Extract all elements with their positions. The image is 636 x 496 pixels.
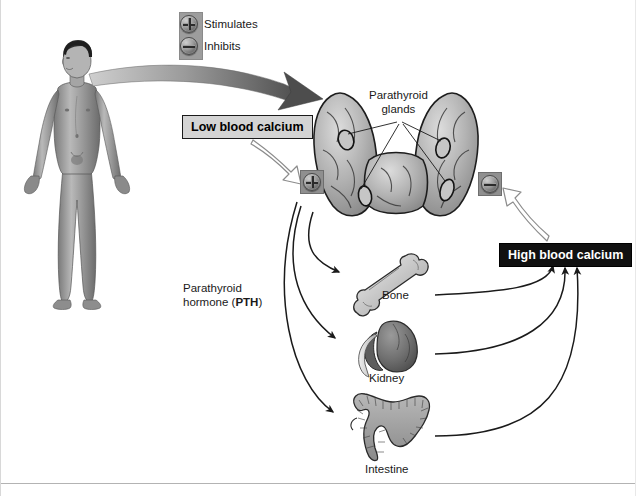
pth-line2-prefix: hormone ( — [183, 296, 235, 308]
stimulates-badge — [300, 170, 324, 194]
plus-circle-icon — [303, 173, 321, 191]
parathyroid-glands-line1: Parathyroid — [369, 88, 428, 102]
pth-line1: Parathyroid — [183, 281, 262, 295]
low-calcium-to-stimulates-arrow — [251, 140, 301, 184]
minus-circle-icon — [481, 175, 499, 193]
bone-label: Bone — [382, 288, 409, 302]
bottom-divider — [1, 483, 636, 484]
high-blood-calcium-label: High blood calcium — [499, 243, 632, 267]
pth-line2: hormone (PTH) — [183, 295, 262, 309]
high-calcium-to-inhibits-arrow — [503, 188, 549, 241]
parathyroid-hormone-label: Parathyroid hormone (PTH) — [183, 281, 262, 310]
parathyroid-glands-label: Parathyroid glands — [369, 88, 428, 117]
bone-illustration — [354, 254, 428, 316]
pth-line2-suffix: ) — [258, 296, 262, 308]
legend-label-inhibits: Inhibits — [204, 40, 240, 52]
legend-item-stimulates: Stimulates — [180, 15, 258, 33]
parathyroid-glands-line2: glands — [369, 102, 428, 116]
pth-arrows-to-organs — [284, 202, 339, 412]
plus-circle-icon — [180, 15, 198, 33]
pth-abbreviation: PTH — [235, 296, 258, 308]
intestine-illustration — [351, 394, 430, 461]
parathyroid-regulation-figure: Stimulates Inhibits Low blood calcium Hi… — [0, 0, 636, 496]
legend-label-stimulates: Stimulates — [204, 18, 258, 30]
legend-item-inhibits: Inhibits — [180, 37, 240, 55]
legend-panel: Stimulates Inhibits — [179, 12, 203, 60]
low-blood-calcium-label: Low blood calcium — [182, 115, 313, 139]
body-to-gland-arrow — [89, 65, 323, 110]
organs-to-high-calcium-arrows — [435, 266, 578, 436]
intestine-label: Intestine — [365, 462, 408, 476]
kidney-illustration — [359, 321, 418, 377]
inhibits-badge — [478, 172, 502, 196]
kidney-label: Kidney — [369, 371, 404, 385]
minus-circle-icon — [180, 37, 198, 55]
